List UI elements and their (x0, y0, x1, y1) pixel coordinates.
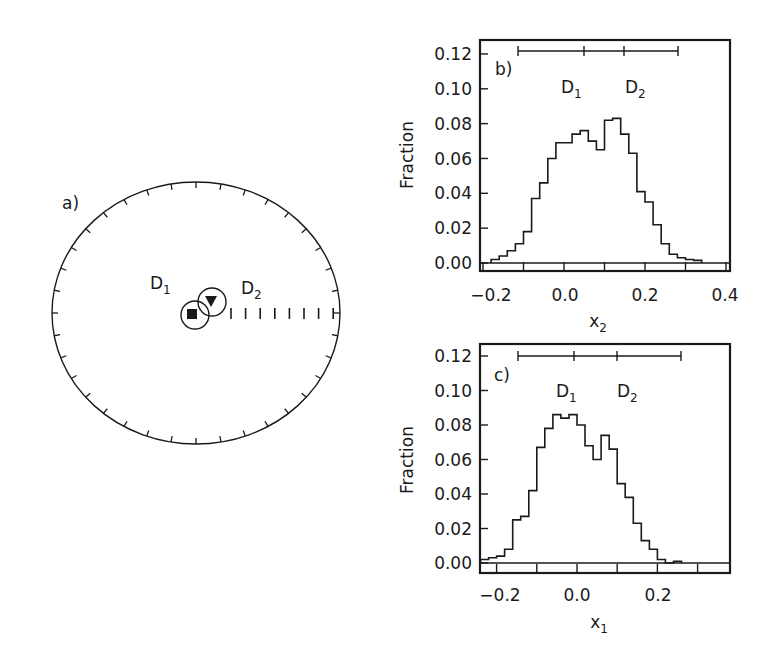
panel-a: a) D1 D2 (52, 182, 340, 444)
svg-text:0.06: 0.06 (434, 149, 472, 169)
d1-square-marker (187, 309, 197, 319)
panel-b-d1-label: D1 (561, 77, 582, 101)
panel-c-d1-label: D1 (556, 381, 577, 405)
panel-c-y-axis-label: Fraction (397, 426, 417, 494)
panel-b-frame (480, 40, 730, 271)
svg-text:0.0: 0.0 (551, 285, 578, 305)
svg-text:0.10: 0.10 (434, 79, 472, 99)
panel-b-y-ticks (480, 54, 488, 263)
d1-label: D1 (150, 273, 171, 297)
svg-text:0.12: 0.12 (434, 346, 472, 366)
panel-b-histogram (491, 118, 702, 263)
d2-label: D2 (241, 278, 262, 302)
panel-b-label: b) (495, 59, 512, 79)
svg-text:−0.2: −0.2 (479, 585, 520, 605)
svg-text:0.08: 0.08 (434, 114, 472, 134)
panel-c-x-tick-labels: −0.2 0.0 0.2 (479, 585, 671, 605)
d2-triangle-marker (205, 296, 217, 307)
panel-c-error-bar (518, 351, 681, 361)
svg-text:0.2: 0.2 (631, 285, 658, 305)
panel-c-y-tick-labels: 0.00 0.02 0.04 0.06 0.08 0.10 0.12 (434, 346, 472, 573)
svg-text:0.0: 0.0 (563, 585, 590, 605)
svg-text:0.10: 0.10 (434, 381, 472, 401)
svg-text:0.02: 0.02 (434, 218, 472, 238)
panel-c-x-ticks (497, 564, 698, 573)
panel-c-d2-label: D2 (617, 381, 638, 405)
radial-scale-ticks (231, 308, 333, 319)
panel-c-frame (480, 344, 730, 573)
svg-text:0.2: 0.2 (644, 585, 671, 605)
svg-text:0.12: 0.12 (434, 44, 472, 64)
panel-c: c) D1 D2 0.00 0.02 0.04 0.06 0.08 0.10 0… (397, 344, 730, 636)
panel-b-x-axis-label: x2 (589, 311, 607, 335)
panel-a-label: a) (62, 193, 79, 213)
panel-c-x-axis-label: x1 (590, 612, 608, 636)
svg-text:0.08: 0.08 (434, 415, 472, 435)
svg-text:0.00: 0.00 (434, 553, 472, 573)
panel-b-y-tick-labels: 0.00 0.02 0.04 0.06 0.08 0.10 0.12 (434, 44, 472, 273)
svg-text:0.04: 0.04 (434, 484, 472, 504)
svg-text:−0.2: −0.2 (470, 285, 511, 305)
figure: a) D1 D2 b) D1 D2 0.00 0.02 (0, 0, 775, 664)
svg-text:0.00: 0.00 (434, 253, 472, 273)
panel-b: b) D1 D2 0.00 0.02 0.04 0.06 0.08 0.10 0… (397, 40, 739, 335)
svg-text:0.04: 0.04 (434, 183, 472, 203)
panel-b-x-tick-labels: −0.2 0.0 0.2 0.4 (470, 285, 738, 305)
panel-c-histogram (481, 415, 682, 563)
svg-text:0.02: 0.02 (434, 519, 472, 539)
panel-b-d2-label: D2 (625, 77, 646, 101)
svg-text:0.06: 0.06 (434, 450, 472, 470)
panel-b-y-axis-label: Fraction (397, 121, 417, 189)
panel-c-label: c) (494, 365, 510, 385)
panel-c-y-ticks (480, 356, 488, 563)
svg-text:0.4: 0.4 (711, 285, 738, 305)
panel-b-error-bar (518, 46, 678, 56)
